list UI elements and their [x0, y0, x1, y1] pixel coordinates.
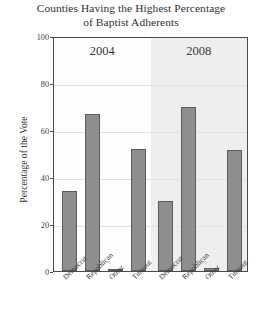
- bar-group-2008: [54, 38, 247, 271]
- chart-title-line1: Counties Having the Highest Percentage: [37, 2, 226, 14]
- y-tick-label-100: 100: [23, 33, 49, 42]
- bar-2008-republican: [181, 107, 196, 272]
- y-axis-label: Percentage of the Vote: [18, 85, 29, 235]
- bar-2008-turnout: [227, 150, 242, 271]
- chart-figure: Counties Having the Highest Percentage o…: [0, 0, 262, 322]
- chart-title: Counties Having the Highest Percentage o…: [0, 2, 262, 29]
- chart-title-line2: of Baptist Adherents: [0, 16, 262, 30]
- y-tick-label-0: 0: [23, 268, 49, 277]
- plot-area: 2004 2008: [53, 37, 248, 272]
- y-tick-mark-0: [50, 272, 53, 273]
